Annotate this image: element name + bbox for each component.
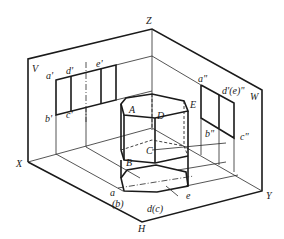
label-axis-x: X [15,158,23,169]
label-solid-d: D [156,110,165,121]
label-plane-h: H [137,223,146,234]
label-v-c: c' [66,109,73,120]
v-projector-top [116,56,152,65]
label-h-b: (b) [112,198,124,210]
w-projector-top [152,56,201,85]
label-h-dc: d(c) [147,203,164,215]
h-projector-1 [56,154,123,191]
label-axis-y: Y [266,190,273,201]
label-w-b: b" [205,128,215,139]
h-projector-5 [186,175,238,186]
label-solid-e: E [189,99,196,110]
label-plane-v: V [32,63,40,74]
w-projection [152,56,234,172]
label-solid-a: A [128,104,136,115]
label-w-c: c" [240,131,249,142]
label-solid-c: C [146,145,153,156]
label-v-e: e' [96,58,103,69]
h-center-line [118,176,194,188]
label-solid-b: B [126,157,132,168]
x-axis [28,128,152,162]
label-v-b: b' [45,113,53,124]
label-h-a: a [110,187,115,198]
projection-diagram: Z X Y V W H a' d' e' b' c' a" d'(e)" b" … [0,0,284,239]
label-v-a: a' [46,70,54,81]
label-v-d: d' [66,65,74,76]
label-w-de: d'(e)" [222,85,245,97]
label-w-a: a" [198,73,208,84]
label-axis-z: Z [146,15,152,26]
label-plane-w: W [250,91,260,102]
label-h-e: e [186,190,191,201]
